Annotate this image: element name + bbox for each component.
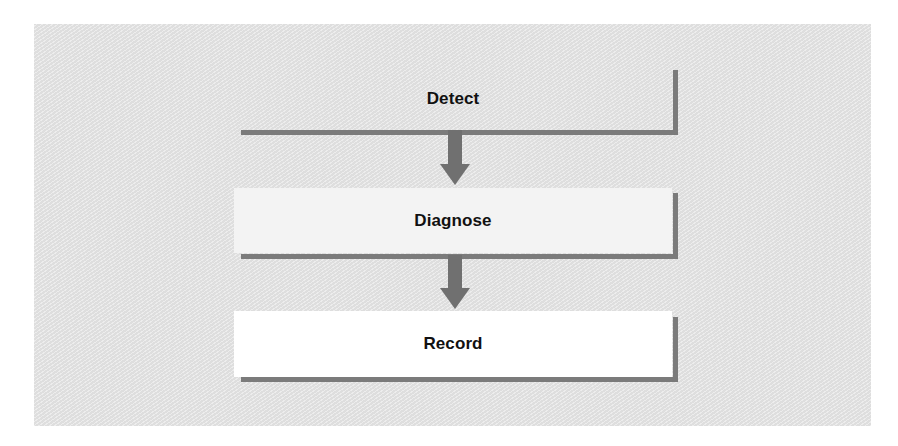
diagram-panel: Detect Diagnose Record bbox=[34, 24, 871, 426]
step-border-right bbox=[673, 193, 678, 259]
step-border-right bbox=[673, 317, 678, 382]
step-diagnose: Diagnose bbox=[234, 188, 672, 253]
step-label-record: Record bbox=[423, 334, 482, 354]
arrow-down-icon bbox=[440, 255, 470, 309]
arrow-down-icon bbox=[440, 130, 470, 186]
arrow-shaft bbox=[448, 130, 462, 166]
step-border-right bbox=[673, 70, 678, 135]
step-detect: Detect bbox=[234, 64, 672, 130]
step-border-bottom bbox=[241, 377, 678, 382]
arrow-head bbox=[440, 164, 470, 185]
step-label-diagnose: Diagnose bbox=[414, 211, 491, 231]
arrow-shaft bbox=[448, 255, 462, 290]
step-record: Record bbox=[234, 311, 672, 377]
step-label-detect: Detect bbox=[427, 89, 480, 109]
arrow-head bbox=[440, 288, 470, 309]
